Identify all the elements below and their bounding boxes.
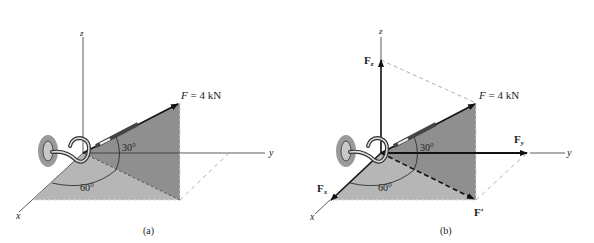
x-axis-label: x: [15, 210, 21, 221]
f-prime-label: F′: [474, 206, 484, 218]
fx-label: Fx: [317, 182, 328, 196]
angle-30-label: 30°: [420, 142, 434, 153]
angle-60-label: 60°: [80, 182, 94, 193]
vector-diagram: z y x F = 4 kN 30° 60° (a): [0, 0, 594, 243]
angle-60-label: 60°: [378, 182, 392, 193]
y-axis-label: y: [268, 147, 274, 158]
z-axis-label: z: [79, 28, 84, 38]
dashed-fz-to-f: [381, 60, 476, 103]
fy-label: Fy: [514, 133, 525, 147]
figure-a: z y x F = 4 kN 30° 60° (a): [15, 28, 274, 237]
x-axis-label: x: [309, 211, 315, 222]
z-axis-label: z: [378, 26, 383, 36]
dashed-to-y: [180, 153, 229, 200]
force-label: F = 4 kN: [180, 89, 221, 101]
force-label: F = 4 kN: [478, 89, 519, 101]
fz-label: Fz: [364, 54, 374, 68]
caption-a: (a): [143, 225, 154, 237]
dashed-to-y: [476, 153, 527, 200]
angle-30-label: 30°: [122, 142, 136, 153]
x-axis: [315, 200, 330, 214]
caption-b: (b): [440, 225, 452, 237]
figure-b: z y x F = 4 kN Fz Fy Fx F′ 30° 60° (b): [309, 26, 572, 237]
y-axis-label: y: [566, 147, 572, 158]
